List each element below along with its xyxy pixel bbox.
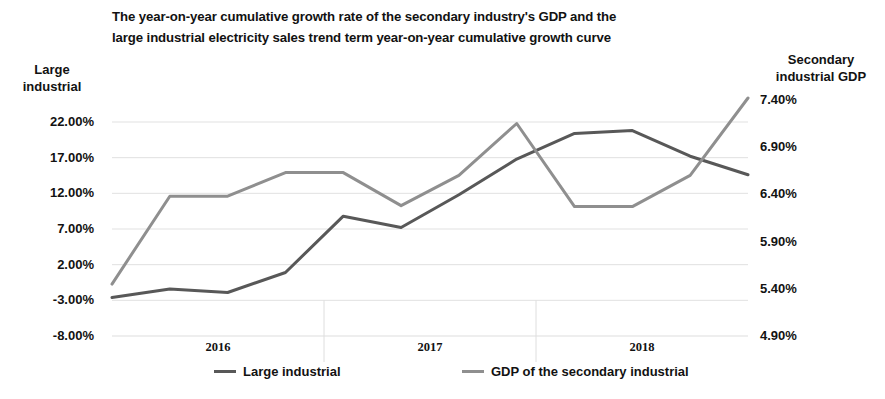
legend-item-large-industrial[interactable]: Large industrial bbox=[214, 364, 341, 379]
plot-area bbox=[112, 122, 748, 336]
right-axis-tick-label: 5.40% bbox=[760, 281, 880, 296]
left-axis-tick-label: 22.00% bbox=[6, 114, 94, 129]
right-axis-tick-label: 5.90% bbox=[760, 234, 880, 249]
left-axis-tick-label: -8.00% bbox=[6, 328, 94, 343]
series-line-large-industrial bbox=[112, 131, 748, 298]
left-axis-tick-label: 2.00% bbox=[6, 257, 94, 272]
right-axis-title: Secondary industrial GDP bbox=[757, 52, 885, 85]
legend-label: Large industrial bbox=[243, 364, 341, 379]
chart-title-line-1: The year-on-year cumulative growth rate … bbox=[112, 6, 752, 27]
right-axis-tick-label: 4.90% bbox=[760, 328, 880, 343]
legend-color-swatch bbox=[462, 370, 484, 373]
chart-legend: Large industrial GDP of the secondary in… bbox=[112, 362, 748, 388]
category-axis-label: 2018 bbox=[597, 340, 687, 355]
legend-color-swatch bbox=[214, 370, 236, 373]
chart-container: The year-on-year cumulative growth rate … bbox=[0, 0, 885, 399]
chart-title-line-2: large industrial electricity sales trend… bbox=[112, 27, 752, 48]
category-axis-label: 2016 bbox=[173, 340, 263, 355]
left-axis-tick-label: -3.00% bbox=[6, 292, 94, 307]
left-axis-tick-label: 7.00% bbox=[6, 221, 94, 236]
left-axis-tick-label: 12.00% bbox=[6, 185, 94, 200]
right-axis-tick-label: 6.90% bbox=[760, 139, 880, 154]
right-axis-tick-label: 6.40% bbox=[760, 186, 880, 201]
legend-label: GDP of the secondary industrial bbox=[491, 364, 689, 379]
chart-title: The year-on-year cumulative growth rate … bbox=[112, 6, 752, 48]
series-line-gdp-secondary-industrial bbox=[112, 98, 748, 284]
right-axis-tick-label: 7.40% bbox=[760, 92, 880, 107]
gridlines-group bbox=[112, 122, 748, 336]
left-axis-title: Large industrial bbox=[6, 62, 98, 95]
legend-item-gdp-secondary-industrial[interactable]: GDP of the secondary industrial bbox=[462, 364, 689, 379]
plot-svg bbox=[112, 122, 748, 336]
category-axis-label: 2017 bbox=[385, 340, 475, 355]
left-axis-tick-label: 17.00% bbox=[6, 150, 94, 165]
series-lines-group bbox=[112, 98, 748, 297]
